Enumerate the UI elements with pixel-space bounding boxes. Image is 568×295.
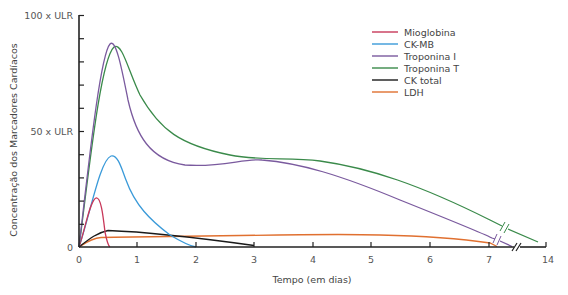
y-tick-label-100: 100 x ULR (24, 10, 73, 21)
break-mark-troponina-t (500, 222, 509, 233)
y-axis-title: Concentração dos Marcadores Cardíacos (8, 43, 19, 237)
x-tick-label-2: 2 (193, 254, 199, 265)
legend-label-mioglobina: Mioglobina (404, 27, 456, 38)
series-troponina-i (79, 43, 512, 247)
legend-label-ldh: LDH (404, 87, 424, 98)
series-troponina-t (79, 46, 538, 247)
legend-label-troponina-i: Troponina I (403, 51, 456, 62)
legend-label-ck-mb: CK-MB (404, 39, 434, 50)
x-axis-title: Tempo (em dias) (271, 274, 351, 285)
cardiac-markers-chart: 100 x ULR 50 x ULR 0 0 1 2 3 4 5 6 7 14 … (0, 0, 568, 295)
x-tick-label-0: 0 (76, 254, 82, 265)
plot-area (79, 43, 538, 247)
x-tick-label-7: 7 (486, 254, 492, 265)
legend-label-troponina-t: Troponina T (403, 63, 459, 74)
x-tick-label-14: 14 (542, 254, 554, 265)
legend-label-ck-total: CK total (404, 75, 442, 86)
x-tick-label-6: 6 (427, 254, 433, 265)
x-tick-label-5: 5 (368, 254, 374, 265)
series-ldh (79, 234, 497, 247)
axes (79, 15, 546, 247)
x-tick-label-1: 1 (134, 254, 140, 265)
break-mark-troponina-i (493, 234, 501, 245)
series-ck-mb (79, 156, 196, 247)
y-tick-label-0: 0 (67, 242, 73, 253)
x-tick-label-4: 4 (310, 254, 316, 265)
y-tick-label-50: 50 x ULR (30, 126, 73, 137)
x-tick-label-3: 3 (251, 254, 257, 265)
legend: Mioglobina CK-MB Troponina I Troponina T… (372, 27, 459, 98)
